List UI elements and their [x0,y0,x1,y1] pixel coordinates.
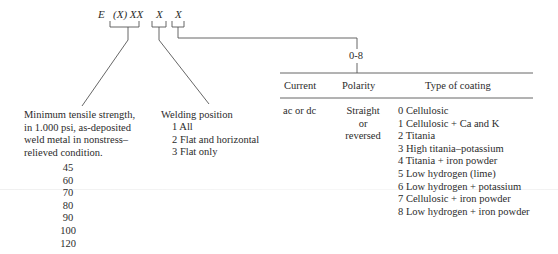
polarity-line: Straight [335,105,391,118]
coating-list: 0 Cellulosic 1 Cellulosic + Ca and K 2 T… [398,105,530,218]
polarity-line: reversed [335,130,391,143]
formula-position: X [156,8,163,20]
coating-item: 8 Low hydrogen + iron powder [398,206,530,219]
polarity-value: Straight or reversed [335,105,391,143]
formula: E [98,8,105,20]
tensile-value: 45 [56,162,80,175]
tensile-line: relieved condition. [24,147,135,160]
coating-range-label: 0-8 [349,50,363,63]
formula-e: E [98,8,105,20]
coating-item: 1 Cellulosic + Ca and K [398,118,530,131]
welding-position-list: 1 All 2 Flat and horizontal 3 Flat only [172,121,259,159]
tensile-value: 90 [56,212,80,225]
tensile-value: 80 [56,200,80,213]
header-current: Current [284,80,316,93]
header-polarity: Polarity [342,80,375,93]
tensile-description: Minimum tensile strength, in 1.000 psi, … [24,109,135,159]
tensile-values: 45 60 70 80 90 100 120 [56,162,80,250]
tensile-value: 120 [56,238,80,251]
coating-item: 3 High titania–potassium [398,143,530,156]
leader-position [159,27,209,104]
tensile-value: 100 [56,225,80,238]
polarity-line: or [335,118,391,131]
tensile-line: weld metal in nonstress– [24,134,135,147]
tensile-value: 70 [56,187,80,200]
coating-item: 0 Cellulosic [398,105,530,118]
formula-strength: (X) XX [113,8,143,20]
coating-item: 7 Cellulosic + iron powder [398,193,530,206]
tensile-value: 60 [56,175,80,188]
coating-item: 5 Low hydrogen (lime) [398,168,530,181]
tensile-line: in 1.000 psi, as-deposited [24,122,135,135]
welding-position-item: 3 Flat only [172,146,259,159]
coating-item: 2 Titania [398,130,530,143]
leader-strength [82,27,128,106]
welding-position-item: 1 All [172,121,259,134]
leader-coating [178,27,357,49]
formula-coating: X [175,8,182,20]
welding-position-item: 2 Flat and horizontal [172,134,259,147]
coating-item: 6 Low hydrogen + potassium [398,181,530,194]
bracket-strength [110,21,139,27]
current-value: ac or dc [283,105,316,118]
bracket-coating [172,21,184,27]
coating-item: 4 Titania + iron powder [398,155,530,168]
welding-position-title: Welding position [161,109,233,122]
tensile-line: Minimum tensile strength, [24,109,135,122]
bracket-position [152,21,166,27]
header-coating: Type of coating [425,80,491,93]
